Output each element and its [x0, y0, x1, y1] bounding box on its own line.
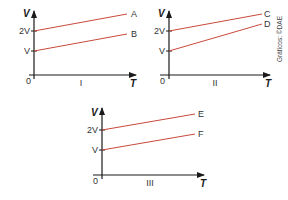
series-label-b: B: [131, 29, 137, 39]
panel-label: II: [212, 78, 217, 88]
x-axis-label: T: [200, 178, 207, 189]
series-label-c: C: [264, 9, 271, 19]
x-axis-label: T: [130, 78, 137, 89]
chart-panel-i: V 2V V A B 0 I T: [19, 8, 137, 89]
chart-panel-iii: V 2V V E F 0 III T: [87, 107, 207, 189]
charts-figure: V 2V V A B 0 I T V 2V V C D 0 II T Gráfi…: [0, 0, 288, 200]
tick-label-2v: 2V: [19, 26, 30, 36]
series-label-e: E: [198, 109, 204, 119]
y-axis-label: V: [158, 8, 166, 19]
origin-label: 0: [26, 76, 31, 86]
line-b: [34, 34, 127, 51]
chart-panel-ii: V 2V V C D 0 II T: [154, 8, 272, 89]
y-axis-label: V: [23, 8, 31, 19]
series-label-f: F: [198, 129, 204, 139]
series-label-a: A: [131, 9, 137, 19]
line-a: [34, 14, 127, 31]
tick-label-2v: 2V: [154, 26, 165, 36]
credit-text: Gráficos: ©DAE: [276, 15, 283, 62]
line-f: [102, 134, 195, 150]
tick-label-v: V: [24, 46, 30, 56]
x-axis-label: T: [265, 78, 272, 89]
origin-label: 0: [160, 76, 165, 86]
panel-label: III: [146, 178, 154, 188]
line-e: [102, 114, 195, 130]
tick-label-v: V: [92, 145, 98, 155]
tick-label-2v: 2V: [87, 125, 98, 135]
series-label-d: D: [264, 19, 271, 29]
panel-label: I: [80, 78, 83, 88]
origin-label: 0: [93, 176, 98, 186]
tick-label-v: V: [159, 46, 165, 56]
y-axis-label: V: [91, 107, 99, 118]
